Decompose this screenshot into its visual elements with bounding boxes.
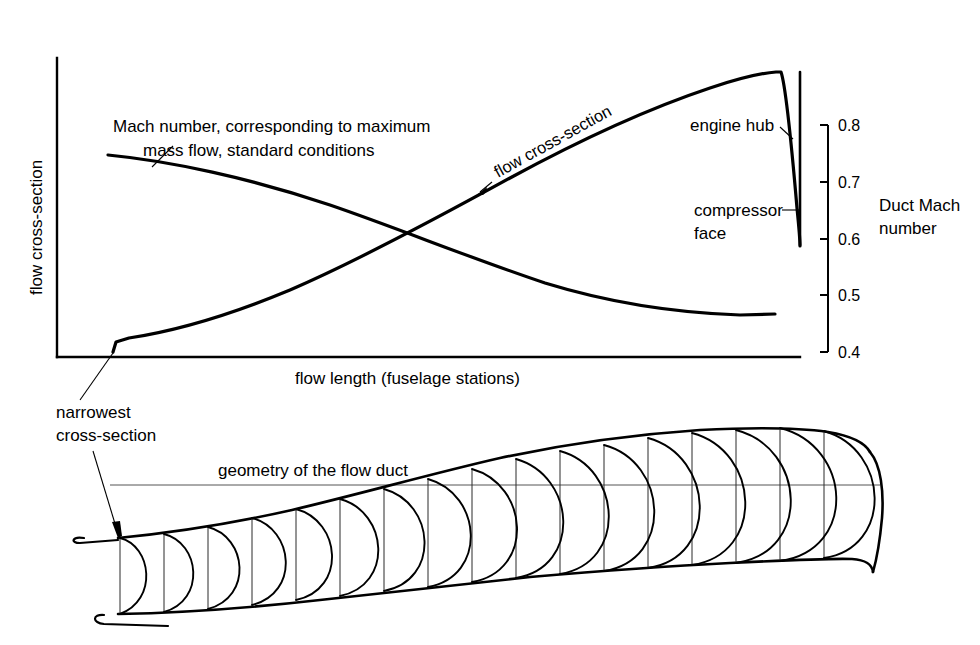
duct-station-lines [120, 428, 824, 614]
duct-mach-ticklabel-4: 0.4 [838, 344, 860, 361]
narrowest-cross-section-leader-lower [93, 451, 116, 527]
duct-mach-axis-label-line2: number [879, 219, 937, 238]
diagram-canvas: flow cross-section flow length (fuselage… [0, 0, 980, 645]
duct-mach-ticklabel-1: 0.7 [838, 174, 860, 191]
duct-cross-section [604, 445, 654, 571]
duct-lower-outline [118, 559, 873, 614]
inlet-lip-upper [74, 538, 118, 543]
duct-mach-ticklabel-3: 0.5 [838, 287, 860, 304]
flow-cross-section-curve-label: flow cross-section [491, 101, 614, 180]
inlet-lip-lower [95, 615, 168, 626]
y-axis-label: flow cross-section [27, 160, 46, 295]
figure-root: flow cross-section flow length (fuselage… [0, 0, 980, 645]
duct-mach-ticklabel-2: 0.6 [838, 231, 860, 248]
narrowest-label-line2: cross-section [56, 426, 156, 445]
duct-upper-outline [118, 428, 870, 538]
duct-cross-section [296, 509, 332, 600]
flow-duct-geometry: geometry of the flow duct [74, 428, 883, 626]
duct-cross-section [252, 518, 286, 605]
duct-cross-section [120, 538, 146, 614]
mach-number-curve [108, 155, 775, 315]
duct-cross-section [824, 431, 875, 558]
duct-cross-section [472, 469, 517, 582]
compressor-face-label-line1: compressor [694, 201, 783, 220]
compressor-face-label-line2: face [694, 224, 726, 243]
duct-cross-section [208, 527, 240, 609]
duct-cross-section [560, 451, 609, 574]
engine-hub-label: engine hub [690, 116, 774, 135]
duct-cross-section [428, 479, 471, 587]
flow-cross-section-label-arrowhead [478, 187, 487, 195]
duct-aft-endcap [870, 452, 883, 572]
flow-duct-title: geometry of the flow duct [218, 461, 408, 480]
narrowest-cross-section-arrowhead [112, 521, 122, 538]
duct-mach-scale: 0.8 0.7 0.6 0.5 0.4 [820, 117, 860, 361]
duct-cross-section [384, 489, 425, 591]
narrowest-cross-section-leader-upper [80, 353, 113, 400]
duct-cross-section [164, 534, 193, 612]
mach-label-line2: mass flow, standard conditions [143, 141, 375, 160]
duct-cross-section [780, 428, 836, 561]
x-axis-label: flow length (fuselage stations) [295, 369, 520, 388]
duct-cross-section [340, 499, 378, 596]
mach-label-line1: Mach number, corresponding to maximum [113, 117, 430, 136]
duct-mach-axis-label-line1: Duct Mach [879, 196, 960, 215]
duct-mach-ticklabel-0: 0.8 [838, 117, 860, 134]
duct-cross-section [516, 459, 563, 578]
narrowest-label-line1: narrowest [56, 403, 131, 422]
